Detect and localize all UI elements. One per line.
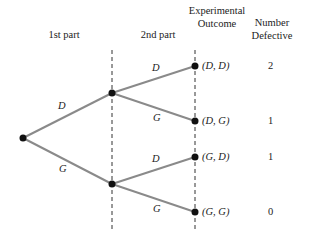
header-outcome-line1: Experimental xyxy=(182,5,252,17)
header-defective-line2: Defective xyxy=(244,30,298,42)
defective-count-GG: 0 xyxy=(268,206,273,218)
branch-label-GD: D xyxy=(152,153,160,165)
header-first-part: 1st part xyxy=(34,29,94,41)
root-node xyxy=(20,135,27,142)
header-second-part: 2nd part xyxy=(128,29,188,41)
defective-count-DD: 2 xyxy=(268,60,273,72)
outcome-GD: (G, D) xyxy=(202,151,229,163)
leaf-node-GD xyxy=(192,154,199,161)
header-outcome-line2: Outcome xyxy=(182,18,252,30)
defective-count-GD: 1 xyxy=(268,151,273,163)
branch-label-first-G: G xyxy=(59,163,67,175)
outcome-DD: (D, D) xyxy=(202,60,229,72)
branch-root-D xyxy=(23,93,112,138)
branch-label-first-D: D xyxy=(58,100,66,112)
leaf-node-DG xyxy=(192,118,199,125)
node-D xyxy=(109,90,116,97)
branch-root-G xyxy=(23,138,112,184)
leaf-node-DD xyxy=(192,63,199,70)
leaf-node-GG xyxy=(192,209,199,216)
node-G xyxy=(109,181,116,188)
outcome-GG: (G, G) xyxy=(202,206,229,218)
branch-label-DD: D xyxy=(152,62,160,74)
defective-count-DG: 1 xyxy=(268,115,273,127)
branch-label-GG: G xyxy=(153,203,161,215)
header-defective-line1: Number xyxy=(244,17,298,29)
branch-label-DG: G xyxy=(153,112,161,124)
outcome-DG: (D, G) xyxy=(202,115,229,127)
